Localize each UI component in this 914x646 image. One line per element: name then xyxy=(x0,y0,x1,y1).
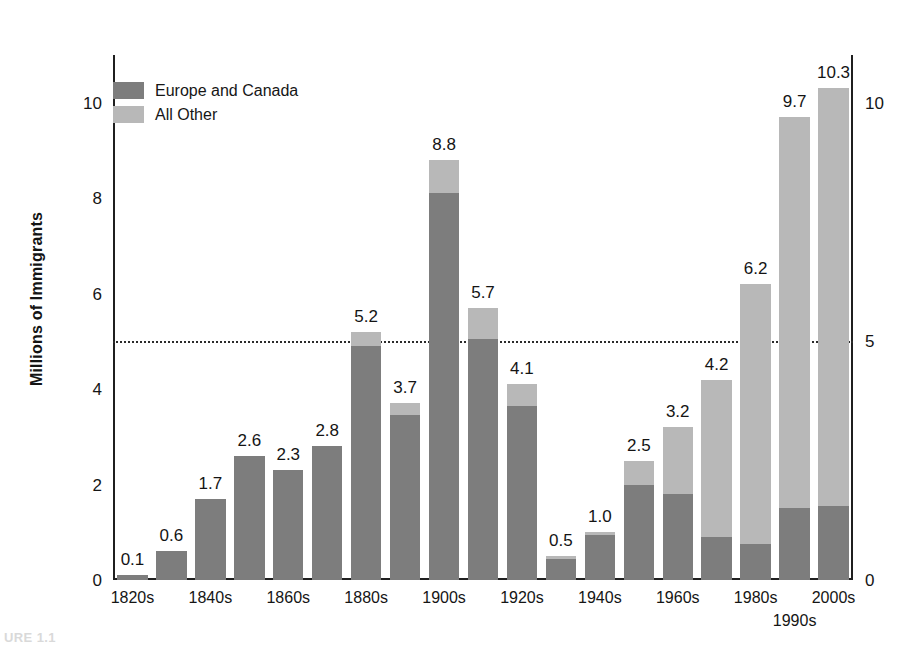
bar-value-label-1860s: 2.3 xyxy=(276,446,300,463)
bar-1900s[interactable] xyxy=(429,160,459,580)
x-tick-label-1990s: 1990s xyxy=(773,613,817,629)
bar-1840s[interactable] xyxy=(195,499,225,580)
bar-segment-europe-canada xyxy=(234,456,264,580)
bar-1970s[interactable] xyxy=(701,380,731,580)
left-tick-2: 2 xyxy=(93,476,102,493)
x-tick-label-1960s: 1960s xyxy=(656,590,700,606)
bar-value-label-1930s: 0.5 xyxy=(549,532,573,549)
bar-1880s[interactable] xyxy=(351,332,381,580)
left-tick-4: 4 xyxy=(93,381,102,398)
bar-value-label-1960s: 3.2 xyxy=(666,403,690,420)
bar-segment-all-other xyxy=(468,308,498,339)
bar-segment-europe-canada xyxy=(663,494,693,580)
x-tick-label-1860s: 1860s xyxy=(266,590,310,606)
legend-label-all-other: All Other xyxy=(155,107,217,123)
bar-value-label-1970s: 4.2 xyxy=(705,356,729,373)
x-tick-label-1820s: 1820s xyxy=(111,590,155,606)
bar-segment-europe-canada xyxy=(546,559,576,580)
bar-value-label-2000s: 10.3 xyxy=(817,64,850,81)
figure-caption: URE 1.1 xyxy=(4,630,56,645)
chart-legend: Europe and Canada All Other xyxy=(113,80,298,125)
x-tick-label-1980s: 1980s xyxy=(734,590,778,606)
plot-area: 0246810 0510 0.10.61.72.62.32.85.23.78.8… xyxy=(113,55,853,580)
bar-series-container: 0.10.61.72.62.32.85.23.78.85.74.10.51.02… xyxy=(113,55,853,580)
bar-segment-europe-canada xyxy=(312,446,342,580)
legend-item-all-other: All Other xyxy=(113,104,298,125)
left-tick-10: 10 xyxy=(83,94,102,111)
right-tick-5: 5 xyxy=(865,333,874,350)
bar-1920s[interactable] xyxy=(507,384,537,580)
bar-value-label-1900s: 8.8 xyxy=(432,136,456,153)
bar-value-label-1910s: 5.7 xyxy=(471,284,495,301)
bar-value-label-1840s: 1.7 xyxy=(199,475,223,492)
x-tick-label-1940s: 1940s xyxy=(578,590,622,606)
bar-value-label-1990s: 9.7 xyxy=(783,93,807,110)
bar-value-label-1950s: 2.5 xyxy=(627,437,651,454)
bar-segment-europe-canada xyxy=(273,470,303,580)
legend-swatch-icon-all-other xyxy=(113,106,144,123)
left-tick-6: 6 xyxy=(93,285,102,302)
left-tick-8: 8 xyxy=(93,190,102,207)
bar-1980s[interactable] xyxy=(740,284,770,580)
bar-1830s[interactable] xyxy=(156,551,186,580)
bar-value-label-1870s: 2.8 xyxy=(315,422,339,439)
bar-segment-europe-canada xyxy=(429,193,459,580)
x-tick-label-1880s: 1880s xyxy=(344,590,388,606)
bar-segment-europe-canada xyxy=(507,406,537,580)
bar-segment-europe-canada xyxy=(740,544,770,580)
bar-segment-europe-canada xyxy=(818,506,848,580)
x-tick-label-2000s: 2000s xyxy=(812,590,856,606)
bar-value-label-1940s: 1.0 xyxy=(588,508,612,525)
bar-segment-all-other xyxy=(351,332,381,346)
bar-1850s[interactable] xyxy=(234,456,264,580)
right-tick-10: 10 xyxy=(865,94,884,111)
bar-1960s[interactable] xyxy=(663,427,693,580)
bar-value-label-1850s: 2.6 xyxy=(237,432,261,449)
bar-1930s[interactable] xyxy=(546,556,576,580)
bar-segment-europe-canada xyxy=(468,339,498,580)
x-tick-label-1900s: 1900s xyxy=(422,590,466,606)
bar-1940s[interactable] xyxy=(585,532,615,580)
bar-1990s[interactable] xyxy=(779,117,809,580)
bar-segment-all-other xyxy=(701,380,731,538)
bar-segment-europe-canada xyxy=(701,537,731,580)
bar-1950s[interactable] xyxy=(624,461,654,580)
bar-1890s[interactable] xyxy=(390,403,420,580)
bar-segment-europe-canada xyxy=(195,499,225,580)
bar-1870s[interactable] xyxy=(312,446,342,580)
left-tick-0: 0 xyxy=(93,572,102,589)
bar-value-label-1820s: 0.1 xyxy=(121,551,145,568)
bar-segment-europe-canada xyxy=(390,415,420,580)
bar-segment-all-other xyxy=(624,461,654,485)
bar-value-label-1890s: 3.7 xyxy=(393,379,417,396)
bar-segment-all-other xyxy=(390,403,420,415)
bar-2000s[interactable] xyxy=(818,88,848,580)
bar-segment-europe-canada xyxy=(624,485,654,580)
bar-segment-all-other xyxy=(429,160,459,193)
x-tick-label-1920s: 1920s xyxy=(500,590,544,606)
bar-value-label-1830s: 0.6 xyxy=(160,527,184,544)
bar-segment-all-other xyxy=(507,384,537,405)
bar-value-label-1980s: 6.2 xyxy=(744,260,768,277)
bar-segment-europe-canada xyxy=(585,535,615,580)
immigration-bar-chart: Millions of Immigrants 0246810 0510 0.10… xyxy=(0,0,914,646)
bar-segment-europe-canada xyxy=(779,508,809,580)
bar-value-label-1880s: 5.2 xyxy=(354,308,378,325)
bar-segment-europe-canada xyxy=(156,551,186,580)
legend-swatch-icon-europe-canada xyxy=(113,82,144,99)
bar-segment-all-other xyxy=(818,88,848,506)
bar-value-label-1920s: 4.1 xyxy=(510,360,534,377)
bar-segment-europe-canada xyxy=(117,575,147,580)
legend-item-europe-canada: Europe and Canada xyxy=(113,80,298,101)
bar-segment-europe-canada xyxy=(351,346,381,580)
right-tick-0: 0 xyxy=(865,572,874,589)
x-tick-label-1840s: 1840s xyxy=(189,590,233,606)
bar-segment-all-other xyxy=(663,427,693,494)
bar-1820s[interactable] xyxy=(117,575,147,580)
bar-segment-all-other xyxy=(740,284,770,544)
y-axis-title: Millions of Immigrants xyxy=(28,169,46,429)
bar-1860s[interactable] xyxy=(273,470,303,580)
bar-segment-all-other xyxy=(779,117,809,508)
legend-label-europe-canada: Europe and Canada xyxy=(155,83,298,99)
bar-1910s[interactable] xyxy=(468,308,498,580)
